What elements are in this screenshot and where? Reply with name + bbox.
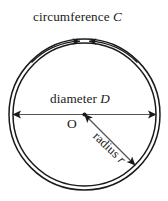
diameter-label-text: diameter (50, 91, 97, 106)
center-point (82, 112, 86, 116)
center-label: O (67, 117, 77, 131)
diameter-label: diameter D (50, 92, 110, 105)
diameter-symbol: D (100, 91, 110, 106)
circumference-symbol: C (113, 9, 122, 24)
circumference-label-text: circumference (33, 9, 110, 24)
circumference-label: circumference C (33, 10, 122, 23)
circle-diagram: circumference C diameter D O radius r (0, 0, 168, 201)
